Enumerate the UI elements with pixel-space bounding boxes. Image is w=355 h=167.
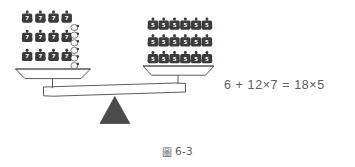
fulcrum-triangle [100, 97, 130, 124]
svg-text:7: 7 [65, 53, 69, 59]
svg-text:5: 5 [162, 39, 166, 45]
svg-text:7: 7 [25, 15, 29, 21]
svg-text:5: 5 [183, 22, 187, 28]
figure-caption-mark: 圖 [162, 144, 172, 159]
svg-text:7: 7 [65, 34, 69, 40]
svg-text:5: 5 [205, 39, 209, 45]
left-pan-unit-balls [71, 25, 79, 69]
balance-beam [44, 83, 186, 96]
svg-text:5: 5 [194, 56, 198, 62]
svg-text:7: 7 [25, 53, 29, 59]
svg-text:7: 7 [52, 53, 56, 59]
right-pan-weights: 5 5 5 5 5 5 5 5 5 5 5 5 5 5 5 5 5 5 [148, 17, 213, 63]
svg-text:7: 7 [38, 53, 42, 59]
svg-text:7: 7 [38, 15, 42, 21]
figure-6-3: 7 7 7 7 7 7 7 7 7 7 7 7 [0, 0, 355, 167]
svg-text:7: 7 [65, 15, 69, 21]
svg-text:5: 5 [173, 22, 177, 28]
svg-text:5: 5 [151, 56, 155, 62]
svg-text:5: 5 [205, 22, 209, 28]
svg-text:5: 5 [151, 39, 155, 45]
svg-text:5: 5 [162, 56, 166, 62]
left-pan [16, 69, 91, 88]
svg-text:5: 5 [194, 39, 198, 45]
svg-text:5: 5 [162, 22, 166, 28]
svg-text:5: 5 [173, 56, 177, 62]
figure-caption-number: 6-3 [175, 145, 193, 157]
svg-text:7: 7 [25, 34, 29, 40]
svg-text:5: 5 [205, 56, 209, 62]
equation-label: 6 + 12×7 = 18×5 [224, 78, 325, 92]
figure-caption: 圖6-3 [0, 144, 355, 159]
svg-text:5: 5 [151, 22, 155, 28]
svg-text:5: 5 [194, 22, 198, 28]
svg-text:5: 5 [173, 39, 177, 45]
svg-text:7: 7 [38, 34, 42, 40]
right-pan [143, 66, 214, 84]
left-pan-weights: 7 7 7 7 7 7 7 7 7 7 7 7 [22, 10, 72, 61]
svg-text:7: 7 [52, 15, 56, 21]
svg-text:7: 7 [52, 34, 56, 40]
svg-text:5: 5 [183, 39, 187, 45]
svg-text:5: 5 [183, 56, 187, 62]
